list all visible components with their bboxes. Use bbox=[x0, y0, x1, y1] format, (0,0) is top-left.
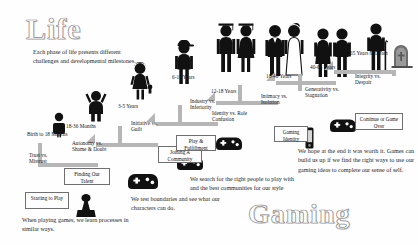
child-girl-figure-icon bbox=[129, 62, 153, 102]
crisis-label-stage-2: Autonomy vs. Shame & Doubt bbox=[72, 140, 112, 153]
crisis-label-stage-4: Industry vs. Inferiority bbox=[190, 98, 232, 111]
page-title-life: Life bbox=[26, 14, 82, 44]
caption-left-bottom: When playing games, we learn processes i… bbox=[22, 216, 140, 235]
connector-segment bbox=[276, 81, 336, 85]
crisis-label-stage-3: Initiative vs. Guilt bbox=[131, 120, 169, 133]
caption-far-right-conclusion: We hope at the end it was worth it. Game… bbox=[298, 147, 414, 175]
crisis-label-stage-7: Generativity vs. Stagnation bbox=[305, 86, 343, 99]
age-label-stage-8: 65 Years to Death bbox=[350, 50, 388, 56]
crisis-label-stage-6: Intimacy vs. Isolation bbox=[261, 93, 303, 106]
caption-mid-bottom: We test boundaries and see what our char… bbox=[131, 195, 233, 214]
elder-with-cane-figure-icon bbox=[366, 22, 389, 72]
age-label-stage-2: 18-36 Months bbox=[66, 123, 96, 129]
page-title-gaming: Gaming bbox=[248, 200, 350, 228]
gamepad-icon bbox=[330, 118, 356, 133]
crisis-label-stage-8: Integrity vs. Despair bbox=[355, 73, 395, 86]
connector-segment bbox=[298, 74, 302, 91]
graduate-figures-icon bbox=[214, 16, 258, 74]
age-label-stage-7: 40-65 Years bbox=[310, 64, 335, 70]
age-label-stage-6: 18-40 Years bbox=[266, 73, 291, 79]
gaming-box-finding-our-talent[interactable]: Finding Our Talent bbox=[64, 168, 110, 185]
joystick-icon bbox=[75, 192, 97, 218]
age-label-stage-1: Birth to 18 Months bbox=[27, 131, 67, 137]
crisis-label-stage-5: Identity vs. Role Confusion bbox=[212, 110, 248, 123]
age-label-stage-3: 3-5 Years bbox=[118, 103, 138, 109]
gaming-box-starting-to-play[interactable]: Starting to Play bbox=[25, 192, 69, 209]
gravestone-icon bbox=[390, 42, 414, 68]
age-label-stage-4: 6-11 Years bbox=[172, 74, 194, 80]
connector-segment bbox=[118, 126, 122, 147]
infographic-canvas: Life Gaming Each phase of life presents … bbox=[0, 0, 418, 245]
age-label-stage-5: 12-18 Years bbox=[211, 88, 236, 94]
gaming-box-gaming-identity[interactable]: Gaming Identity bbox=[274, 126, 308, 142]
connector-segment bbox=[178, 105, 182, 126]
toddler-figure-icon bbox=[84, 90, 108, 122]
gamepad-icon bbox=[216, 136, 242, 151]
wedding-couple-figure-icon bbox=[262, 22, 308, 78]
caption-right-communities: We search for the right people to play w… bbox=[190, 175, 295, 194]
connector-segment bbox=[238, 85, 242, 105]
gaming-box-continue-or-game-over[interactable]: Continue or Game Over bbox=[355, 113, 403, 130]
crisis-label-stage-1: Trust vs. Mistrust bbox=[29, 152, 65, 165]
gamepad-icon bbox=[128, 173, 158, 189]
gaming-box-play-and-fulfillment[interactable]: Play & Fulfillment bbox=[176, 135, 216, 151]
